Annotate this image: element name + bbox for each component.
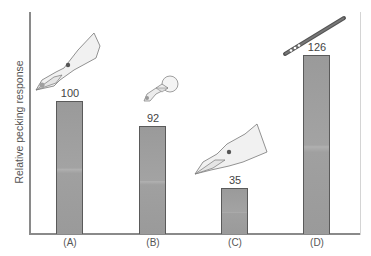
gull-head-icon <box>193 122 269 178</box>
y-axis-label: Relative pecking response <box>13 47 25 197</box>
value-label-b: 92 <box>133 112 173 124</box>
chart: Relative pecking response 100 (A) 92 (B)… <box>0 0 371 256</box>
bar-c <box>221 188 248 234</box>
bar-b <box>139 126 166 234</box>
gull-head-icon <box>34 28 104 93</box>
chart-border <box>360 12 361 235</box>
category-label-d: (D) <box>297 237 337 248</box>
category-label-b: (B) <box>133 237 173 248</box>
bar-a <box>56 101 83 234</box>
striped-stick-icon <box>282 15 347 57</box>
bar-d <box>303 55 330 234</box>
bill-model-icon <box>142 74 182 104</box>
y-axis <box>29 12 31 235</box>
category-label-c: (C) <box>215 237 255 248</box>
category-label-a: (A) <box>50 237 90 248</box>
